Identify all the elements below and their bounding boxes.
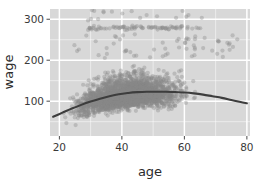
x-axis-title: age — [138, 164, 162, 179]
y-tick-label: 100 — [24, 95, 44, 107]
x-tick-label: 80 — [240, 141, 253, 153]
y-axis-title: wage — [1, 55, 16, 90]
y-axis-ticks — [47, 19, 51, 101]
y-tick-label: 200 — [24, 54, 44, 66]
x-tick-label: 60 — [178, 141, 191, 153]
x-tick-label: 40 — [115, 141, 128, 153]
wage-vs-age-scatter-figure: 20406080 100200300 age wage — [0, 0, 263, 185]
x-axis-ticks — [59, 136, 247, 140]
y-tick-label: 300 — [24, 13, 44, 25]
x-tick-label: 20 — [53, 141, 66, 153]
y-axis-tick-labels: 100200300 — [24, 13, 44, 107]
chart-canvas: 20406080 100200300 age wage — [0, 0, 263, 185]
x-axis-tick-labels: 20406080 — [53, 141, 254, 153]
